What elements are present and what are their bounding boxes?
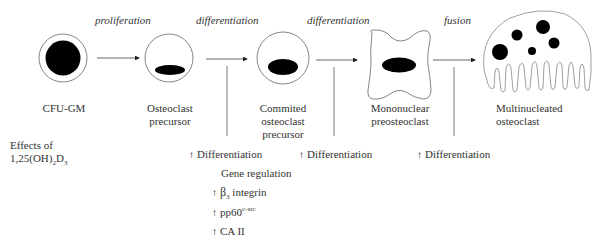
- mononuclear-preosteoclast-cell-icon: [368, 30, 431, 99]
- stage-label-line: osteoclast: [496, 115, 576, 128]
- transition-label-differentiation-2: differentiation: [307, 14, 370, 26]
- stage-label-line: precursor: [140, 115, 200, 128]
- osteoclast-precursor-cell-icon: [145, 34, 193, 82]
- stage-label-line: Mononuclear: [362, 102, 438, 115]
- stage-label-line: osteoclast: [255, 115, 311, 128]
- effect-differentiation-2: ↑Differentiation: [299, 148, 372, 161]
- up-arrow-icon: ↑: [189, 148, 194, 161]
- committed-precursor-cell-icon: [257, 32, 309, 84]
- stage-label-line: CFU-GM: [38, 102, 90, 115]
- transition-label-proliferation: proliferation: [95, 14, 151, 26]
- stage-label-osteoclast-precursor: Osteoclast precursor: [140, 102, 200, 128]
- stage-label-cfu-gm: CFU-GM: [38, 102, 90, 115]
- effect-differentiation-1: ↑Differentiation: [189, 148, 262, 161]
- gene-item-beta3-integrin: ↑β3 integrin: [212, 186, 267, 199]
- gene-item-ca-ii: ↑CA II: [212, 225, 245, 238]
- stage-label-multinucleated-osteoclast: Multinucleated osteoclast: [496, 102, 576, 128]
- multinucleated-osteoclast-cell-icon: [484, 11, 592, 92]
- effects-title-line2: 1,25(OH)2D3: [10, 152, 67, 165]
- stage-label-mononuclear-preosteoclast: Mononuclear preosteoclast: [362, 102, 438, 128]
- gene-regulation-title: Gene regulation: [221, 167, 292, 180]
- up-arrow-icon: ↑: [417, 148, 422, 161]
- gene-item-pp60-c-src: ↑pp60c-src: [212, 206, 256, 219]
- stage-label-line: Multinucleated: [496, 102, 576, 115]
- up-arrow-icon: ↑: [299, 148, 304, 161]
- effect-differentiation-3: ↑Differentiation: [417, 148, 490, 161]
- stage-label-line: Commited: [255, 102, 311, 115]
- stage-label-committed-precursor: Commited osteoclast precursor: [255, 102, 311, 141]
- stage-label-line: precursor: [255, 128, 311, 141]
- up-arrow-icon: ↑: [212, 186, 217, 199]
- up-arrow-icon: ↑: [212, 206, 217, 219]
- stage-label-line: Osteoclast: [140, 102, 200, 115]
- transition-label-fusion: fusion: [444, 14, 471, 26]
- transition-label-differentiation-1: differentiation: [196, 14, 259, 26]
- cfu-gm-cell-icon: [39, 34, 87, 82]
- up-arrow-icon: ↑: [212, 225, 217, 238]
- stage-label-line: preosteoclast: [362, 115, 438, 128]
- effects-title: Effects of 1,25(OH)2D3: [10, 139, 67, 165]
- effects-title-line1: Effects of: [10, 139, 67, 152]
